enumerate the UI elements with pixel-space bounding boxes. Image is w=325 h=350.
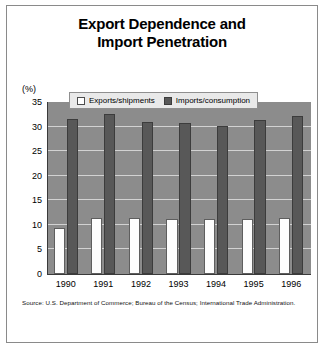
- x-tick-label: 1995: [235, 279, 273, 289]
- bar-group: 1991: [85, 102, 123, 274]
- bar-exports: [242, 219, 253, 274]
- legend-item-imports: Imports/consumption: [164, 96, 250, 105]
- bar-exports: [166, 219, 177, 274]
- legend-swatch-exports-icon: [77, 97, 85, 105]
- x-tick-label: 1996: [272, 279, 310, 289]
- bar-exports: [204, 219, 215, 274]
- bar-exports: [279, 218, 290, 274]
- y-tick-label: 10: [32, 220, 42, 230]
- bar-group: 1996: [272, 102, 310, 274]
- y-tick-label: 25: [32, 146, 42, 156]
- bar-group: 1995: [235, 102, 273, 274]
- x-tick-label: 1992: [122, 279, 160, 289]
- bar-imports: [142, 122, 153, 274]
- chart-title: Export Dependence and Import Penetration: [7, 15, 317, 51]
- bar-exports: [91, 218, 102, 274]
- y-tick-label: 30: [32, 122, 42, 132]
- bar-exports: [54, 228, 65, 274]
- bar-imports: [292, 116, 303, 274]
- legend-item-exports: Exports/shipments: [77, 96, 155, 105]
- source-note: Source: U.S. Department of Commerce; Bur…: [22, 299, 295, 306]
- legend-label-imports: Imports/consumption: [176, 96, 250, 105]
- bar-group: 1992: [122, 102, 160, 274]
- chart-figure: Export Dependence and Import Penetration…: [6, 5, 318, 343]
- bar-imports: [104, 114, 115, 274]
- bar-imports: [67, 119, 78, 274]
- bar-group: 1993: [160, 102, 198, 274]
- x-tick-label: 1990: [47, 279, 85, 289]
- bar-group: 1990: [47, 102, 85, 274]
- y-tick-label: 15: [32, 195, 42, 205]
- chart-title-line-1: Export Dependence and: [7, 15, 317, 33]
- plot-wrapper: 05101520253035 1990199119921993199419951…: [47, 102, 310, 274]
- bar-group: 1994: [197, 102, 235, 274]
- chart-legend: Exports/shipments Imports/consumption: [69, 92, 258, 109]
- x-tick-label: 1991: [85, 279, 123, 289]
- legend-swatch-imports-icon: [164, 97, 172, 105]
- x-tick-label: 1994: [197, 279, 235, 289]
- y-axis-unit-label: (%): [22, 84, 36, 94]
- chart-title-line-2: Import Penetration: [7, 33, 317, 51]
- y-tick-label: 5: [37, 244, 42, 254]
- y-tick-label: 20: [32, 171, 42, 181]
- bar-imports: [254, 120, 265, 274]
- bar-imports: [217, 126, 228, 274]
- x-tick-label: 1993: [160, 279, 198, 289]
- y-tick-label: 0: [37, 269, 42, 279]
- y-tick-label: 35: [32, 97, 42, 107]
- bar-imports: [179, 123, 190, 274]
- legend-label-exports: Exports/shipments: [89, 96, 155, 105]
- bar-exports: [129, 218, 140, 274]
